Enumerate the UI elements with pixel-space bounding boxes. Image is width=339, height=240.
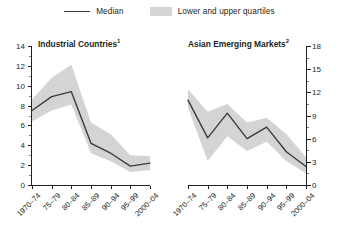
legend-label-median: Median	[96, 7, 123, 16]
y-axis-tick	[28, 185, 32, 186]
y-axis-tick-label: 9	[312, 111, 316, 120]
y-axis-tick	[307, 69, 311, 70]
y-axis-minor-tick	[307, 173, 309, 174]
y-axis-minor-tick	[307, 81, 309, 82]
y-axis-tick	[28, 125, 32, 126]
panel-asian-emerging-markets: Asian Emerging Markets2 03691215181970–7…	[169, 36, 339, 236]
y-axis-minor-tick	[307, 104, 309, 105]
panel-industrial-countries: Industrial Countries1 024681012141970–74…	[0, 36, 170, 236]
y-axis-tick-label: 0	[312, 181, 316, 190]
y-axis-tick	[307, 185, 311, 186]
x-axis-tick	[111, 186, 112, 189]
x-axis-tick	[150, 186, 151, 189]
y-axis-minor-tick	[29, 56, 31, 57]
legend-label-quartiles: Lower and upper quartiles	[178, 7, 275, 16]
legend-item-median: Median	[64, 7, 123, 16]
y-axis-tick-label: 6	[312, 134, 316, 143]
panel-title-right-footnote: 2	[286, 38, 289, 44]
x-axis-tick	[227, 186, 228, 189]
y-axis-minor-tick	[29, 155, 31, 156]
x-axis-tick	[188, 186, 189, 189]
y-axis-tick-label: 2	[0, 161, 25, 170]
y-axis-tick	[28, 145, 32, 146]
y-axis-tick	[307, 116, 311, 117]
y-axis-line	[31, 46, 32, 186]
x-axis-tick	[306, 186, 307, 189]
chart-figure: Median Lower and upper quartiles Industr…	[0, 0, 339, 240]
y-axis-tick-label: 8	[0, 101, 25, 110]
plot-area-left	[32, 46, 150, 185]
y-axis-tick-label: 6	[0, 121, 25, 130]
y-axis-tick	[307, 92, 311, 93]
median-line-swatch-icon	[64, 11, 90, 12]
y-axis-tick-label: 4	[0, 141, 25, 150]
y-axis-tick-label: 18	[312, 42, 321, 51]
y-axis-tick-label: 0	[0, 181, 25, 190]
x-axis-tick	[247, 186, 248, 189]
panel-title-left-footnote: 1	[117, 38, 120, 44]
y-axis-minor-tick	[29, 175, 31, 176]
y-axis-tick	[307, 139, 311, 140]
quartile-band-left	[32, 65, 150, 172]
y-axis-minor-tick	[307, 150, 309, 151]
plot-svg-right	[188, 46, 306, 185]
y-axis-tick-label: 10	[0, 81, 25, 90]
y-axis-minor-tick	[29, 96, 31, 97]
plot-area-right	[188, 46, 306, 185]
x-axis-tick	[52, 186, 53, 189]
legend-item-quartiles: Lower and upper quartiles	[150, 7, 275, 16]
chart-legend: Median Lower and upper quartiles	[0, 4, 339, 18]
y-axis-tick-label: 15	[312, 65, 321, 74]
y-axis-tick-label: 12	[312, 88, 321, 97]
y-axis-tick	[28, 165, 32, 166]
x-axis-tick	[286, 186, 287, 189]
x-axis-tick	[32, 186, 33, 189]
x-axis-tick	[267, 186, 268, 189]
y-axis-tick-label: 14	[0, 42, 25, 51]
x-axis-tick	[71, 186, 72, 189]
x-axis-tick	[91, 186, 92, 189]
y-axis-minor-tick	[29, 135, 31, 136]
y-axis-tick-label: 12	[0, 61, 25, 70]
y-axis-tick	[307, 162, 311, 163]
quartile-band-swatch-icon	[150, 7, 172, 16]
quartile-band-right	[188, 89, 306, 173]
y-axis-tick-label: 3	[312, 157, 316, 166]
y-axis-tick	[28, 66, 32, 67]
y-axis-minor-tick	[307, 58, 309, 59]
y-axis-tick	[28, 46, 32, 47]
x-axis-tick	[130, 186, 131, 189]
y-axis-minor-tick	[29, 116, 31, 117]
y-axis-tick	[28, 106, 32, 107]
plot-svg-left	[32, 46, 150, 185]
y-axis-tick	[28, 86, 32, 87]
y-axis-tick	[307, 46, 311, 47]
y-axis-minor-tick	[29, 76, 31, 77]
x-axis-tick	[208, 186, 209, 189]
y-axis-minor-tick	[307, 127, 309, 128]
